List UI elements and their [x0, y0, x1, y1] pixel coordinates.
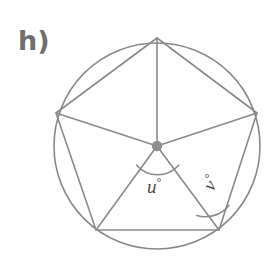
geometry-figure: h) u° v°	[0, 0, 265, 269]
circle-center-dot	[152, 141, 162, 151]
pentagon-in-circle-diagram	[0, 0, 265, 269]
radius-to-left-vertex	[56, 113, 157, 146]
angle-label-u: u°	[147, 176, 161, 196]
radius-to-right-vertex	[157, 113, 257, 146]
angle-label-u-symbol: u	[147, 176, 157, 197]
degree-symbol-u: °	[157, 175, 162, 189]
